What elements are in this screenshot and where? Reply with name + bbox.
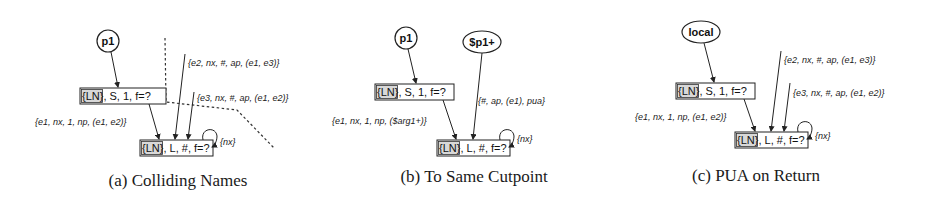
svg-text:{LN}, S, 1, f=?: {LN}, S, 1, f=? [82, 90, 151, 102]
self-loop-label: {nx} [220, 137, 236, 147]
panel-a: p1 {LN}, S, 1, f=? {e1, nx, 1, np, (e1, … [35, 30, 289, 190]
node-summary: {LN}, S, 1, f=? [375, 84, 454, 100]
node-loop: {LN}, L, #, f=? [437, 140, 510, 156]
edge-label-pua: {#, ap, (e1), pua} [478, 96, 545, 106]
node-p1: p1 [97, 30, 119, 52]
node-loop-rest: , L, #, f=? [163, 142, 209, 154]
svg-text:{LN}, L, #, f=?: {LN}, L, #, f=? [439, 142, 507, 154]
node-loop: {LN}, L, #, f=? [140, 140, 213, 156]
caption-b: (b) To Same Cutpoint [400, 167, 548, 186]
node-sp1-plus: $p1+ [463, 31, 501, 53]
svg-text:{LN}, S, 1, f=?: {LN}, S, 1, f=? [678, 85, 747, 97]
node-highlight: {LN} [142, 142, 164, 154]
edge-label-e2: {e2, nx, #, ap, (e1, e3)} [784, 55, 876, 65]
node-loop: {LN}, L, #, f=? [735, 132, 808, 148]
node-summary: {LN}, S, 1, f=? [676, 83, 755, 99]
svg-text:{LN}, S, 1, f=?: {LN}, S, 1, f=? [377, 86, 446, 98]
caption-a: (a) Colliding Names [109, 171, 248, 190]
svg-text:{LN}, L, #, f=?: {LN}, L, #, f=? [142, 142, 210, 154]
svg-text:$p1+: $p1+ [469, 36, 494, 48]
node-p1: p1 [395, 27, 417, 49]
node-summary-rest: , S, 1, f=? [103, 90, 150, 102]
edge-label-e1: {e1, nx, 1, np, (e1, e2)} [635, 112, 727, 122]
edge-label-e1: {e1, nx, 1, np, ($arg1+)} [332, 116, 427, 126]
panel-c: local {LN}, S, 1, f=? {e1, nx, 1, np, (e… [635, 21, 885, 185]
node-highlight: {LN} [82, 90, 104, 102]
self-loop-label: {nx} [517, 134, 533, 144]
node-summary: {LN}, S, 1, f=? [80, 88, 166, 104]
svg-text:p1: p1 [400, 32, 413, 44]
svg-text:local: local [688, 26, 713, 38]
diagram-canvas: p1 {LN}, S, 1, f=? {e1, nx, 1, np, (e1, … [0, 0, 931, 207]
edge-label-e3: {e3, nx, #, ap, (e1, e2)} [793, 88, 885, 98]
panel-b: p1 $p1+ {LN}, S, 1, f=? {e1, nx, 1, np, … [332, 27, 548, 186]
caption-c: (c) PUA on Return [692, 166, 820, 185]
node-p1-label: p1 [102, 35, 115, 47]
edge-label-e2: {e2, nx, #, ap, (e1, e3)} [188, 58, 280, 68]
edge-label-e3: {e3, nx, #, ap, (e1, e2)} [197, 93, 289, 103]
node-local: local [682, 21, 720, 43]
svg-text:{LN}, L, #, f=?: {LN}, L, #, f=? [737, 134, 805, 146]
self-loop-label: {nx} [815, 131, 831, 141]
edge-label-e1: {e1, nx, 1, np, (e1, e2)} [35, 117, 127, 127]
